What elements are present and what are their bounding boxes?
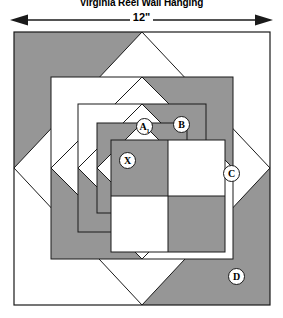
piece-label-c-text: C [228,168,235,179]
piece-label-d-text: D [233,271,240,282]
dimension-label: 12" [0,11,283,23]
piece-label-a1-text: A [139,121,146,132]
page-title: Virginia Reel Wall Hanging [0,0,283,8]
piece-label-c: C [223,165,240,182]
four-patch-cell-bottom-right [168,196,225,252]
four-patch-cell-top-left [111,140,168,196]
virginia-reel-block: A1 B C D X [0,28,283,318]
dimension-value: 12" [130,11,153,23]
four-patch-cell-top-right [168,140,225,196]
piece-label-b: B [173,116,190,133]
piece-label-x: X [119,152,136,169]
piece-label-a1: A1 [136,118,153,135]
piece-label-a1-subscript: 1 [147,128,150,134]
four-patch-cell-bottom-left [111,196,168,252]
piece-label-d: D [228,268,245,285]
piece-label-x-text: X [124,155,131,166]
piece-label-b-text: B [178,119,185,130]
